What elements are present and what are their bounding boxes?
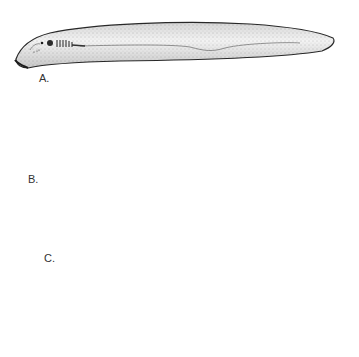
panel-label-a: A. [39, 72, 49, 84]
panel-label-b: B. [28, 173, 38, 185]
panel-label-c: C. [44, 252, 55, 264]
illustration-figure [0, 0, 359, 357]
animal-a-lancelet [15, 22, 334, 68]
